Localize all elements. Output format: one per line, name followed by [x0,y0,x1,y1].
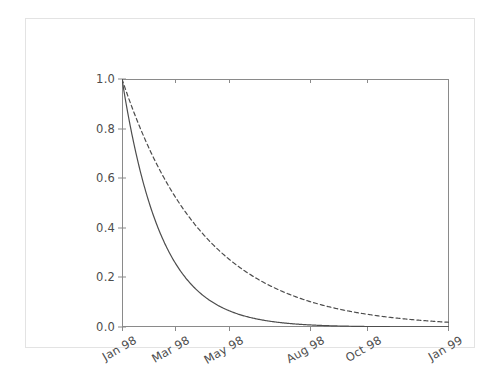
figure-frame: 0.0 0.2 0.4 0.6 0.8 1.0 Jan 98 Mar 98 [25,18,475,348]
x-tick-label: Oct 98 [342,333,383,365]
y-tick-label: 0.6 [96,171,115,185]
y-tick-label: 0.4 [96,221,115,235]
x-tick-label: May 98 [201,333,245,367]
x-tick-mark [229,327,230,331]
x-tick-mark [448,327,449,331]
x-tick-label: Jan 98 [100,333,139,364]
plot-area: 0.0 0.2 0.4 0.6 0.8 1.0 Jan 98 Mar 98 [122,79,449,327]
y-tick-label: 0.8 [96,122,115,136]
series-slow-decay-line [122,79,449,322]
x-tick-mark [367,327,368,331]
x-tick-mark [310,327,311,331]
x-tick-label: Jan 99 [426,333,465,364]
x-tick-label: Aug 98 [284,333,327,366]
y-tick-label: 0.0 [96,320,115,334]
x-tick-mark [122,327,123,331]
x-tick-label: Mar 98 [149,333,192,366]
x-tick-mark [175,327,176,331]
y-tick-label: 0.2 [96,270,115,284]
chart-curves [122,79,449,327]
series-fast-decay-line [122,79,449,327]
y-tick-label: 1.0 [96,72,115,86]
